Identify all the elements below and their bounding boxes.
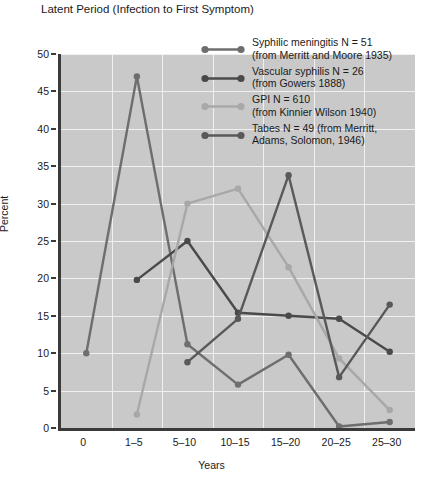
y-tick-mark (51, 315, 56, 317)
data-point (336, 316, 342, 322)
data-point (235, 316, 241, 322)
x-tick-label: 15–20 (271, 436, 300, 448)
chart-title: Latent Period (Infection to First Sympto… (41, 3, 254, 15)
y-tick-label: 5 (25, 385, 49, 397)
legend-item: Tabes N = 49 (from Merritt, Adams, Solom… (200, 122, 392, 147)
legend-label: Tabes N = 49 (from Merritt, Adams, Solom… (252, 122, 392, 147)
y-tick-label: 30 (25, 198, 49, 210)
y-tick-mark (51, 427, 56, 429)
y-tick-label: 45 (25, 85, 49, 97)
x-axis-title: Years (0, 459, 423, 471)
data-point (285, 313, 291, 319)
data-point (285, 172, 291, 178)
data-point (285, 352, 291, 358)
data-point (387, 407, 393, 413)
y-tick-mark (51, 240, 56, 242)
y-tick-label: 35 (25, 160, 49, 172)
data-point (235, 381, 241, 387)
y-tick-label: 40 (25, 123, 49, 135)
x-tick-label: 5–10 (173, 436, 196, 448)
data-point (336, 355, 342, 361)
x-tick-label: 0 (80, 436, 86, 448)
y-tick-mark (51, 390, 56, 392)
y-tick-label: 0 (25, 422, 49, 434)
y-tick-label: 10 (25, 347, 49, 359)
legend-marker-icon (200, 40, 246, 49)
series-line (187, 175, 389, 377)
data-point (134, 411, 140, 417)
data-point (387, 301, 393, 307)
x-tick-label: 1–5 (125, 436, 143, 448)
data-point (134, 277, 140, 283)
legend-item: Vascular syphilis N = 26 (from Gowers 18… (200, 65, 392, 90)
chart-legend: Syphilic meningitis N = 51 (from Merritt… (200, 36, 392, 150)
y-tick-mark (51, 128, 56, 130)
x-tick-label: 20–25 (322, 436, 351, 448)
data-point (235, 185, 241, 191)
data-point (285, 264, 291, 270)
legend-marker-icon (200, 126, 246, 135)
series-line (137, 189, 390, 415)
y-tick-mark (51, 352, 56, 354)
data-point (134, 73, 140, 79)
data-point (184, 200, 190, 206)
legend-label: Vascular syphilis N = 26 (from Gowers 18… (252, 65, 392, 90)
data-point (184, 238, 190, 244)
legend-marker-icon (200, 69, 246, 78)
y-tick-mark (51, 90, 56, 92)
y-tick-mark (51, 53, 56, 55)
legend-label: Syphilic meningitis N = 51 (from Merritt… (252, 36, 392, 61)
x-tick-label: 10–15 (220, 436, 249, 448)
data-point (184, 359, 190, 365)
data-point (184, 341, 190, 347)
data-point (83, 350, 89, 356)
x-tick-label: 25–30 (372, 436, 401, 448)
legend-item: GPI N = 610 (from Kinnier Wilson 1940) (200, 93, 392, 118)
chart-figure: Latent Period (Infection to First Sympto… (0, 0, 423, 491)
y-tick-mark (51, 277, 56, 279)
y-tick-mark (51, 203, 56, 205)
y-tick-mark (51, 165, 56, 167)
y-tick-label: 20 (25, 272, 49, 284)
y-axis-title: Percent (0, 196, 10, 232)
legend-label: GPI N = 610 (from Kinnier Wilson 1940) (252, 93, 392, 118)
data-point (387, 349, 393, 355)
legend-marker-icon (200, 97, 246, 106)
y-tick-label: 25 (25, 235, 49, 247)
y-tick-label: 15 (25, 310, 49, 322)
legend-item: Syphilic meningitis N = 51 (from Merritt… (200, 36, 392, 61)
data-point (336, 374, 342, 380)
data-point (387, 419, 393, 425)
y-tick-label: 50 (25, 48, 49, 60)
